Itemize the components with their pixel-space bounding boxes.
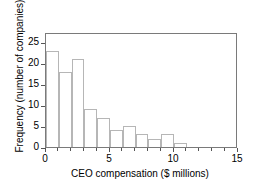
- x-tick-label: 5: [99, 153, 119, 165]
- plot-frame: [45, 33, 237, 148]
- histogram-chart: Frequency (number of companies) 05101520…: [0, 0, 254, 188]
- histogram-bar: [97, 118, 110, 147]
- histogram-bar: [123, 126, 136, 147]
- y-tick-label: 20: [28, 57, 39, 69]
- x-tick-label: 0: [35, 153, 55, 165]
- x-tick-label: 10: [163, 153, 183, 165]
- histogram-bar: [46, 51, 59, 147]
- y-tick-label: 10: [28, 99, 39, 111]
- y-tick-label: 15: [28, 78, 39, 90]
- x-tick-label: 15: [227, 153, 247, 165]
- y-tick-label: 5: [33, 120, 39, 132]
- x-tick-mark: [224, 148, 225, 151]
- x-tick-mark: [185, 148, 186, 151]
- plot-area: [46, 34, 236, 147]
- y-tick-label: 0: [33, 141, 39, 153]
- histogram-bar: [148, 139, 161, 147]
- x-tick-mark: [160, 148, 161, 151]
- x-tick-mark: [45, 148, 46, 152]
- x-tick-mark: [109, 148, 110, 152]
- histogram-bar: [174, 143, 187, 147]
- histogram-bar: [59, 72, 72, 147]
- x-tick-mark: [198, 148, 199, 151]
- x-tick-mark: [70, 148, 71, 151]
- x-axis-title: CEO compensation ($ millions): [40, 168, 240, 179]
- x-tick-mark: [237, 148, 238, 152]
- x-tick-mark: [96, 148, 97, 151]
- x-tick-mark: [134, 148, 135, 151]
- x-tick-mark: [147, 148, 148, 151]
- histogram-bar: [161, 134, 174, 147]
- y-axis: 0510152025: [0, 33, 45, 149]
- x-tick-mark: [57, 148, 58, 151]
- histogram-bar: [136, 134, 149, 147]
- x-tick-mark: [83, 148, 84, 151]
- x-tick-mark: [121, 148, 122, 151]
- histogram-bar: [84, 109, 97, 147]
- histogram-bar: [72, 59, 85, 147]
- x-tick-mark: [211, 148, 212, 151]
- x-tick-mark: [173, 148, 174, 152]
- y-tick-label: 25: [28, 36, 39, 48]
- histogram-bar: [110, 130, 123, 147]
